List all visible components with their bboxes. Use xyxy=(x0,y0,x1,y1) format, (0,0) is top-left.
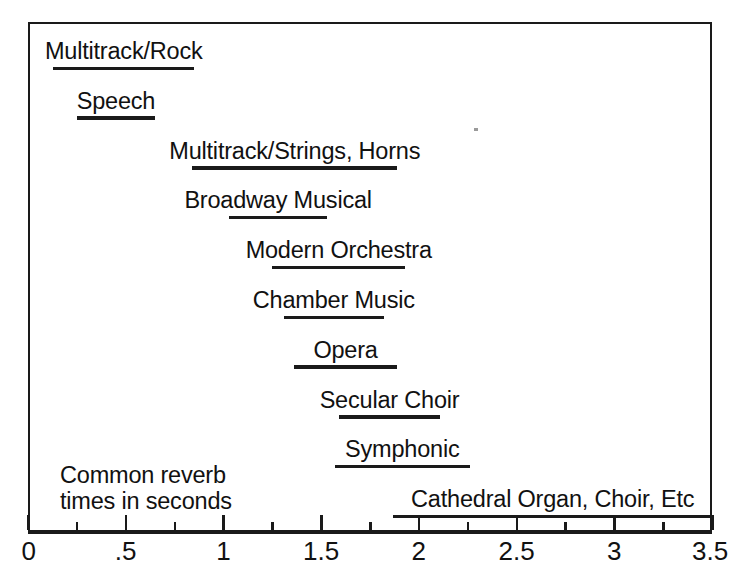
x-tick-minor xyxy=(174,522,177,530)
x-tick-major xyxy=(222,515,225,530)
chart-caption: Common reverb times in seconds xyxy=(60,462,232,514)
x-tick-label: 2 xyxy=(412,536,426,566)
x-tick-minor xyxy=(564,522,567,530)
bar-range-line xyxy=(53,67,194,71)
bar-label: Modern Orchestra xyxy=(246,237,432,264)
bar-range-line xyxy=(335,465,470,469)
x-tick-major xyxy=(27,515,30,530)
bar-label: Secular Choir xyxy=(320,387,460,414)
x-tick-label: .5 xyxy=(115,536,137,566)
bar-row: Modern Orchestra xyxy=(272,223,405,273)
x-tick-major xyxy=(613,515,616,530)
x-tick-label: 0 xyxy=(21,536,35,566)
bar-row: Multitrack/Strings, Horns xyxy=(192,124,397,174)
bar-range-line xyxy=(339,415,441,419)
x-axis-line xyxy=(28,530,712,534)
x-tick-major xyxy=(516,515,519,530)
bar-label: Cathedral Organ, Choir, Etc xyxy=(411,486,694,513)
x-tick-label: 3.5 xyxy=(692,536,728,566)
bar-row: Secular Choir xyxy=(339,373,441,423)
x-tick-minor xyxy=(467,522,470,530)
x-tick-major xyxy=(320,515,323,530)
x-tick-minor xyxy=(369,522,372,530)
bar-row: Cathedral Organ, Choir, Etc xyxy=(393,472,712,522)
bar-row: Multitrack/Rock xyxy=(53,24,194,74)
bar-label: Symphonic xyxy=(345,436,459,463)
x-tick-major xyxy=(418,515,421,530)
bar-row: Symphonic xyxy=(335,422,470,472)
bar-label: Opera xyxy=(313,337,377,364)
bar-label: Multitrack/Strings, Horns xyxy=(169,138,420,165)
x-tick-major xyxy=(125,515,128,530)
bar-range-line xyxy=(77,116,155,120)
bar-row: Chamber Music xyxy=(284,273,384,323)
x-tick-label: 1 xyxy=(216,536,230,566)
bar-range-line xyxy=(294,365,398,369)
x-tick-label: 3 xyxy=(607,536,621,566)
bar-row: Broadway Musical xyxy=(229,173,327,223)
x-tick-label: 2.5 xyxy=(498,536,534,566)
bar-range-line xyxy=(272,266,405,270)
x-tick-major xyxy=(711,515,714,530)
reverb-time-chart: Multitrack/RockSpeechMultitrack/Strings,… xyxy=(0,0,733,581)
bar-row: Speech xyxy=(77,74,155,124)
bar-range-line xyxy=(284,316,384,320)
bar-range-line xyxy=(192,166,397,170)
bar-range-line xyxy=(229,216,327,220)
x-tick-label: 1.5 xyxy=(303,536,339,566)
x-tick-minor xyxy=(271,522,274,530)
bar-label: Chamber Music xyxy=(253,287,415,314)
x-tick-minor xyxy=(662,522,665,530)
scan-speck xyxy=(474,128,478,131)
bar-label: Multitrack/Rock xyxy=(45,38,203,65)
bar-label: Speech xyxy=(77,88,156,115)
bar-range-line xyxy=(393,515,712,519)
bar-label: Broadway Musical xyxy=(184,187,372,214)
x-tick-minor xyxy=(76,522,79,530)
bar-row: Opera xyxy=(294,323,398,373)
